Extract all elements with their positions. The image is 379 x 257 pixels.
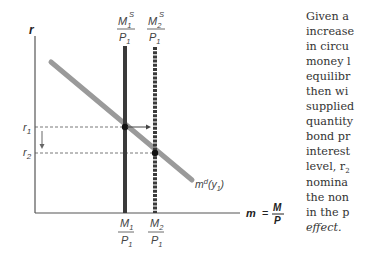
text-line: in the p — [306, 205, 379, 220]
x-axis-label: m = M P — [246, 202, 284, 226]
text-line: quantity — [306, 114, 379, 129]
body-text-column: Given a increase in circu money l equili… — [306, 9, 379, 235]
text-line: then wi — [306, 84, 379, 99]
y-axis-label: r — [29, 23, 35, 37]
svg-text:S: S — [159, 10, 164, 19]
svg-text:P: P — [274, 215, 281, 226]
supply-1-bottom-label: M1 P1 — [118, 217, 134, 249]
equilibrium-point-2 — [152, 150, 158, 156]
supply-2-bottom-label: M2 P1 — [148, 217, 164, 249]
text-line: increase — [306, 24, 379, 39]
text-line: money l — [306, 54, 379, 69]
svg-text:M1: M1 — [120, 217, 133, 232]
text-line: in circu — [306, 39, 379, 54]
svg-text:S: S — [129, 10, 134, 19]
money-demand-curve — [51, 62, 192, 180]
text-line: the non — [306, 190, 379, 205]
text-line: Given a — [306, 9, 379, 24]
text-line: supplied — [306, 99, 379, 114]
supply-2-top-label: M2 S P1 — [147, 10, 165, 46]
svg-text:P1: P1 — [121, 234, 133, 249]
svg-text:=: = — [262, 207, 268, 219]
money-demand-label: md(y1) — [195, 177, 224, 192]
text-line: equilibr — [306, 69, 379, 84]
supply-1-top-label: M1 S P1 — [117, 10, 135, 46]
r1-label: r1 — [23, 121, 31, 136]
svg-text:M2: M2 — [150, 217, 164, 232]
svg-text:m: m — [246, 207, 256, 219]
text-line: bond pr — [306, 129, 379, 144]
svg-text:P1: P1 — [119, 31, 131, 46]
text-line: interest — [306, 144, 379, 159]
arrow-head-right-icon — [146, 125, 151, 130]
text-line: nomina — [306, 175, 379, 190]
arrow-head-down-icon — [40, 144, 45, 149]
r2-label: r2 — [23, 146, 32, 161]
svg-text:P1: P1 — [149, 31, 161, 46]
text-line: effect. — [306, 220, 379, 235]
text-line: level, r2 — [306, 159, 379, 174]
svg-text:M: M — [273, 202, 282, 213]
svg-text:P1: P1 — [151, 234, 163, 249]
